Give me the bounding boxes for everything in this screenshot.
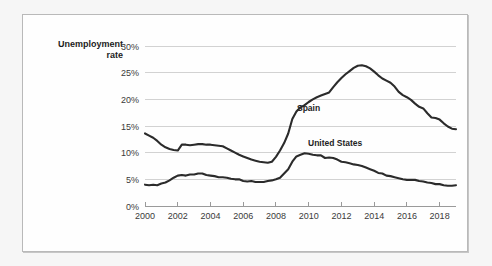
figure-frame: 0%5%10%15%20%25%30% 20002002200420062008…	[22, 14, 468, 252]
x-axis-tick-labels: 2000200220042006200820102012201420162018	[135, 211, 450, 221]
x-tick-label: 2008	[266, 211, 286, 221]
y-tick-label: 5%	[126, 175, 139, 185]
y-axis-title-line2: rate	[27, 50, 123, 61]
y-tick-label: 30%	[121, 42, 139, 52]
series-line-united-states	[145, 153, 456, 186]
x-tick-label: 2016	[397, 211, 417, 221]
y-axis-title: Unemployment rate	[27, 39, 123, 61]
x-tick-label: 2010	[299, 211, 319, 221]
x-tick-label: 2006	[233, 211, 253, 221]
x-tick-label: 2000	[135, 211, 155, 221]
series-label-united-states: United States	[308, 138, 362, 148]
y-tick-label: 20%	[121, 95, 139, 105]
y-tick-label: 15%	[121, 122, 139, 132]
x-axis	[145, 202, 456, 206]
series-label-spain: Spain	[297, 103, 320, 113]
x-tick-label: 2002	[168, 211, 188, 221]
x-tick-label: 2018	[430, 211, 450, 221]
x-tick-label: 2014	[364, 211, 384, 221]
series-line-spain	[145, 65, 456, 163]
y-axis-tick-labels: 0%5%10%15%20%25%30%	[121, 42, 139, 212]
y-tick-label: 10%	[121, 148, 139, 158]
y-tick-label: 25%	[121, 68, 139, 78]
y-axis-title-line1: Unemployment	[27, 39, 123, 50]
x-tick-label: 2004	[200, 211, 220, 221]
y-tick-label: 0%	[126, 202, 139, 212]
x-tick-label: 2012	[331, 211, 351, 221]
data-series-lines	[145, 65, 456, 186]
